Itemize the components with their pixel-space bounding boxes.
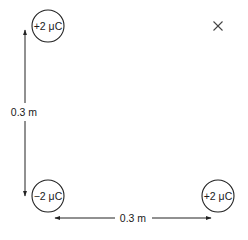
charge-label: +2 μC bbox=[204, 190, 233, 202]
charge-arrangement-diagram: +2 μC −2 μC +2 μC 0.3 m 0.3 m bbox=[0, 0, 248, 240]
charge-label: −2 μC bbox=[34, 190, 63, 202]
charge-label: +2 μC bbox=[34, 20, 63, 32]
horizontal-distance-label: 0.3 m bbox=[120, 212, 147, 224]
horizontal-dimension: 0.3 m bbox=[55, 212, 211, 224]
point-marker-top-right bbox=[214, 22, 223, 31]
vertical-dimension: 0.3 m bbox=[10, 30, 42, 196]
charge-bottom-left: −2 μC bbox=[32, 180, 64, 212]
charge-bottom-right: +2 μC bbox=[202, 180, 234, 212]
charge-top-left: +2 μC bbox=[32, 10, 64, 42]
vertical-distance-label: 0.3 m bbox=[11, 106, 38, 118]
